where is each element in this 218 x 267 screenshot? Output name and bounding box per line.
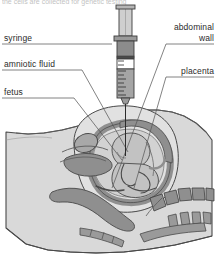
vertebra-4: [192, 188, 205, 200]
sacrum-seg-4: [203, 212, 211, 224]
vertebra-2: [164, 190, 179, 205]
label-abdominal-wall-line2: wall: [199, 33, 214, 43]
syringe-thumb-flange: [116, 5, 135, 9]
sacrum-seg-2: [180, 212, 190, 225]
syringe-barrel-lower: [117, 69, 134, 98]
label-fetus: fetus: [4, 87, 23, 97]
vertebra-5: [206, 188, 214, 201]
diagram-canvas: [0, 0, 218, 267]
anatomy-group: [6, 106, 214, 253]
vertebra-3: [178, 188, 192, 201]
syringe-barrel-upper: [117, 41, 134, 58]
syringe-tip-cone: [121, 98, 130, 104]
label-syringe: syringe: [4, 33, 32, 43]
label-abdominal-wall-line1: abdominal: [174, 22, 214, 32]
sacrum-seg-3: [192, 212, 201, 224]
syringe-barrel-flange: [114, 36, 137, 41]
syringe-fluid-window: [117, 59, 134, 69]
label-placenta: placenta: [181, 66, 214, 76]
label-amniotic-fluid: amniotic fluid: [4, 59, 55, 69]
syringe-plunger-seal: [117, 56, 134, 59]
amniocentesis-figure: the cells are collected for genetic test…: [0, 0, 218, 267]
